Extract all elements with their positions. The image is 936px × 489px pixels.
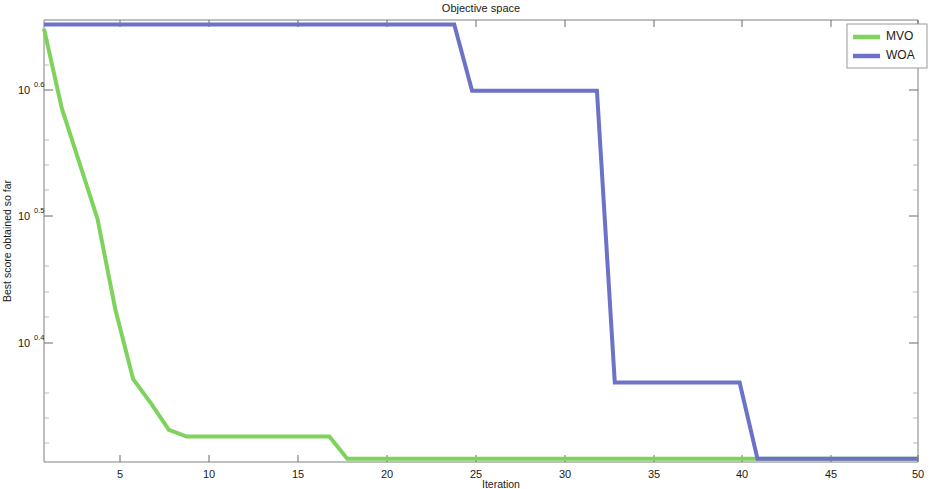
x-tick-label: 40 — [736, 468, 748, 480]
y-tick-label-exponent: 0.6 — [34, 80, 44, 89]
x-tick-marks — [120, 20, 918, 462]
x-tick-label: 30 — [559, 468, 571, 480]
y-axis-label: Best score obtained so far — [1, 180, 13, 302]
x-tick-label: 45 — [825, 468, 837, 480]
y-tick-marks — [44, 90, 918, 343]
axes-frame — [44, 20, 918, 462]
y-tick-label-mantissa: 10 — [18, 84, 30, 96]
legend: MVO WOA — [847, 24, 927, 68]
y-tick-labels: 10 0.6 10 0.5 10 0.4 — [18, 80, 44, 349]
chart-title: Objective space — [442, 2, 520, 14]
x-tick-label: 10 — [203, 468, 215, 480]
x-tick-label: 35 — [648, 468, 660, 480]
x-tick-labels: 5 10 15 20 25 30 35 40 45 50 — [117, 468, 924, 480]
x-tick-label: 50 — [912, 468, 924, 480]
legend-label-mvo: MVO — [886, 29, 913, 43]
y-tick-label-mantissa: 10 — [18, 337, 30, 349]
x-tick-label: 20 — [381, 468, 393, 480]
line-chart-canvas: 5 10 15 20 25 30 35 40 45 50 10 0.6 10 0… — [0, 0, 936, 489]
x-tick-label: 25 — [470, 468, 482, 480]
series-line-woa — [44, 24, 918, 458]
x-tick-label: 15 — [292, 468, 304, 480]
y-tick-label-exponent: 0.4 — [34, 333, 44, 342]
y-tick-label-exponent: 0.5 — [34, 206, 44, 215]
series-line-mvo — [44, 29, 918, 459]
y-minor-tick-marks — [44, 40, 918, 443]
objective-space-figure: 5 10 15 20 25 30 35 40 45 50 10 0.6 10 0… — [0, 0, 936, 489]
x-tick-label: 5 — [117, 468, 123, 480]
x-axis-label: Iteration — [482, 478, 520, 489]
y-tick-label-mantissa: 10 — [18, 210, 30, 222]
legend-label-woa: WOA — [886, 48, 915, 62]
